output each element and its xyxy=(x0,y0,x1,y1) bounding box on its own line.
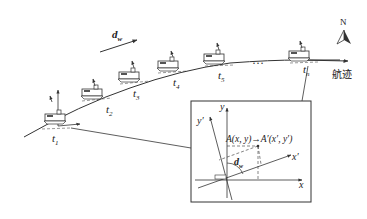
time-label-t2: t2 xyxy=(106,103,113,118)
ellipsis: … xyxy=(252,53,264,67)
wave-direction-label: dw xyxy=(112,28,123,43)
transform-text: A(x, y)→A′(x′, y′) xyxy=(225,134,292,145)
inset-axis-x: x xyxy=(298,179,304,190)
north-label: N xyxy=(340,17,347,27)
inset-axis-x-prime: x′ xyxy=(291,151,299,162)
inset-axis-y: y xyxy=(219,101,225,112)
inset-axis-y-prime: y′ xyxy=(196,115,204,126)
track-label: 航迹 xyxy=(332,68,352,80)
time-label-t3: t3 xyxy=(133,87,140,102)
time-label-t4: t4 xyxy=(173,76,180,91)
ship-t1 xyxy=(42,90,80,129)
inset-connector-left xyxy=(71,128,191,148)
time-label-t5: t5 xyxy=(218,69,225,84)
north-arrow-icon xyxy=(337,30,351,44)
ship-t2 xyxy=(81,79,112,101)
ship-t4 xyxy=(157,51,188,73)
ship-t3 xyxy=(118,61,150,84)
time-label-t1: t1 xyxy=(52,132,59,147)
ship-trajectory-diagram: dw t1 t2 t3 t4 t5 tn … 航迹 xyxy=(0,0,367,219)
